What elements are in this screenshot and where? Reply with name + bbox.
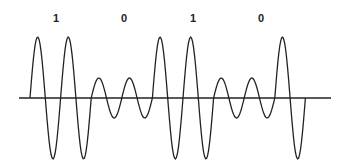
bit-label: 1	[53, 12, 59, 24]
ask-waveform-diagram: 1 0 1 0	[0, 0, 346, 168]
bit-label: 0	[258, 12, 264, 24]
bit-label: 1	[190, 12, 196, 24]
bit-labels: 1 0 1 0	[53, 12, 264, 24]
bit-label: 0	[121, 12, 127, 24]
